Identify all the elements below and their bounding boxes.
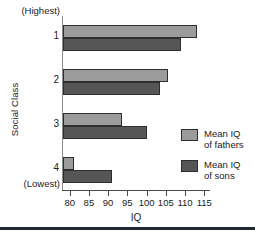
- bar-fathers-class-4: [63, 157, 74, 170]
- x-axis-tick: [127, 191, 128, 196]
- x-axis-tick-label: 115: [192, 197, 216, 208]
- y-axis-end-label-highest: (Highest): [0, 5, 60, 16]
- y-axis-tick-label-class-1: 1: [39, 30, 59, 41]
- x-axis-tick: [204, 191, 205, 196]
- legend-label-line1: Mean IQ: [204, 128, 244, 139]
- bar-fathers-class-1: [63, 25, 197, 38]
- legend-item: Mean IQof fathers: [181, 128, 255, 150]
- bar-sons-class-2: [63, 82, 160, 95]
- x-axis-tick: [166, 191, 167, 196]
- legend-label: Mean IQof fathers: [204, 128, 244, 150]
- legend-swatch-fathers: [181, 129, 198, 141]
- bar-fathers-class-2: [63, 69, 168, 82]
- y-axis-end-label-lowest: (Lowest): [0, 178, 60, 189]
- legend-label-line2: of sons: [204, 170, 240, 181]
- bottom-rule: [0, 227, 255, 230]
- bar-fathers-class-3: [63, 113, 122, 126]
- legend-label: Mean IQof sons: [204, 159, 240, 181]
- legend-label-line1: Mean IQ: [204, 159, 240, 170]
- x-axis-tick: [185, 191, 186, 196]
- chart-legend: Mean IQof fathersMean IQof sons: [181, 128, 255, 190]
- bar-sons-class-1: [63, 38, 181, 51]
- x-axis-title: IQ: [62, 212, 210, 223]
- bar-sons-class-3: [63, 126, 147, 139]
- y-axis-tick-label-class-3: 3: [39, 118, 59, 129]
- y-axis-title: Social Class: [9, 65, 20, 155]
- legend-swatch-sons: [181, 160, 198, 172]
- legend-item: Mean IQof sons: [181, 159, 255, 181]
- y-axis-tick-label-class-2: 2: [39, 74, 59, 85]
- x-axis-tick: [147, 191, 148, 196]
- x-axis-tick: [89, 191, 90, 196]
- x-axis-line: [62, 190, 210, 191]
- x-axis-tick: [70, 191, 71, 196]
- y-axis-tick-label-class-4: 4: [39, 162, 59, 173]
- legend-label-line2: of fathers: [204, 139, 244, 150]
- chart-figure: Social Class (Highest) (Lowest) 1234 808…: [0, 0, 255, 235]
- bar-sons-class-4: [63, 170, 112, 183]
- x-axis-tick: [108, 191, 109, 196]
